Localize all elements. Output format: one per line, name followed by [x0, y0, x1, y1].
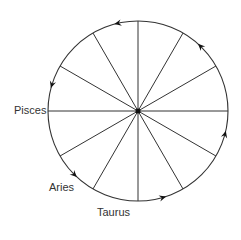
spoke-line — [60, 66, 138, 111]
spoke-line — [93, 111, 138, 189]
spoke-line — [138, 111, 183, 189]
center-point — [136, 109, 141, 114]
spoke-line — [138, 33, 183, 111]
spoke-line — [138, 66, 216, 111]
label-pisces: Pisces — [14, 105, 46, 116]
label-taurus: Taurus — [97, 207, 130, 218]
spoke-line — [60, 111, 138, 156]
spoke-line — [93, 33, 138, 111]
spoke-line — [138, 111, 216, 156]
label-aries: Aries — [49, 182, 74, 193]
